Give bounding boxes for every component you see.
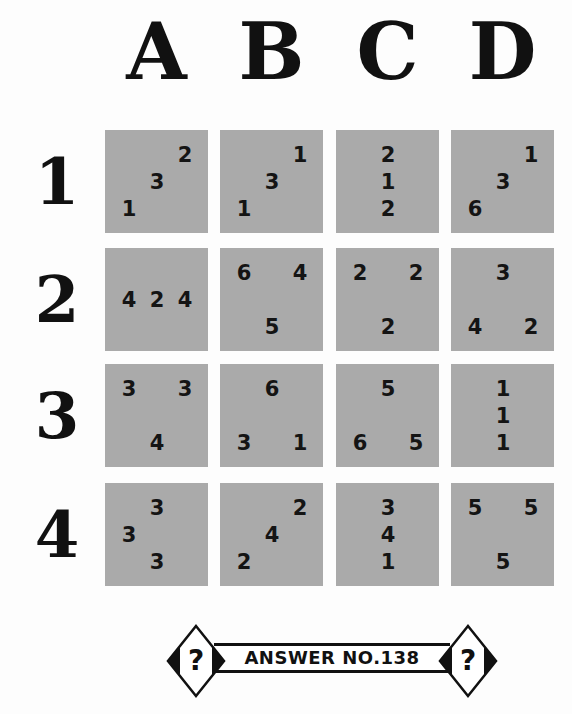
cell-digit: 5 bbox=[376, 376, 400, 402]
puzzle-cell-d1: 136 bbox=[451, 130, 554, 233]
cell-digit: 1 bbox=[491, 376, 515, 402]
puzzle-cell-d3: 111 bbox=[451, 364, 554, 467]
cell-digit: 3 bbox=[376, 495, 400, 521]
cell-digit: 2 bbox=[288, 495, 312, 521]
cell-digit: 3 bbox=[117, 376, 141, 402]
puzzle-cell-c1: 212 bbox=[336, 130, 439, 233]
puzzle-cell-d4: 555 bbox=[451, 483, 554, 586]
cell-digit: 5 bbox=[491, 549, 515, 575]
cell-digit: 2 bbox=[404, 260, 428, 286]
puzzle-cell-a3: 334 bbox=[105, 364, 208, 467]
puzzle-cell-a4: 333 bbox=[105, 483, 208, 586]
puzzle-cell-b3: 631 bbox=[220, 364, 323, 467]
cell-digit: 4 bbox=[288, 260, 312, 286]
question-mark-icon: ? bbox=[166, 624, 226, 698]
puzzle-cell-d2: 342 bbox=[451, 248, 554, 351]
puzzle-cell-a2: 424 bbox=[105, 248, 208, 351]
row-label-3: 3 bbox=[22, 364, 92, 467]
cell-digit: 4 bbox=[145, 430, 169, 456]
cell-digit: 4 bbox=[173, 287, 197, 313]
cell-digit: 5 bbox=[463, 495, 487, 521]
row-label-2: 2 bbox=[22, 248, 92, 351]
cell-digit: 2 bbox=[376, 142, 400, 168]
cell-digit: 3 bbox=[232, 430, 256, 456]
cell-digit: 2 bbox=[348, 260, 372, 286]
cell-digit: 3 bbox=[145, 549, 169, 575]
cell-digit: 1 bbox=[232, 196, 256, 222]
cell-digit: 3 bbox=[491, 169, 515, 195]
cell-digit: 3 bbox=[491, 260, 515, 286]
cell-digit: 4 bbox=[463, 314, 487, 340]
puzzle-cell-a1: 231 bbox=[105, 130, 208, 233]
cell-digit: 3 bbox=[260, 169, 284, 195]
cell-digit: 1 bbox=[376, 169, 400, 195]
cell-digit: 4 bbox=[117, 287, 141, 313]
puzzle-cell-c2: 222 bbox=[336, 248, 439, 351]
question-mark-icon: ? bbox=[438, 624, 498, 698]
cell-digit: 2 bbox=[376, 196, 400, 222]
cell-digit: 5 bbox=[404, 430, 428, 456]
column-label-c: C bbox=[336, 12, 439, 92]
cell-digit: 6 bbox=[463, 196, 487, 222]
cell-digit: 1 bbox=[288, 430, 312, 456]
cell-digit: 3 bbox=[117, 522, 141, 548]
cell-digit: 1 bbox=[117, 196, 141, 222]
column-label-d: D bbox=[451, 12, 554, 92]
cell-digit: 1 bbox=[491, 430, 515, 456]
puzzle-cell-b1: 131 bbox=[220, 130, 323, 233]
puzzle-cell-b4: 242 bbox=[220, 483, 323, 586]
column-label-a: A bbox=[105, 12, 208, 92]
cell-digit: 3 bbox=[173, 376, 197, 402]
cell-digit: 6 bbox=[232, 260, 256, 286]
cell-digit: 2 bbox=[376, 314, 400, 340]
cell-digit: 5 bbox=[260, 314, 284, 340]
svg-text:?: ? bbox=[188, 644, 204, 677]
cell-digit: 2 bbox=[145, 287, 169, 313]
svg-text:?: ? bbox=[460, 644, 476, 677]
puzzle-cell-c3: 565 bbox=[336, 364, 439, 467]
answer-banner: ANSWER NO.138 ? ? bbox=[166, 624, 496, 700]
row-label-4: 4 bbox=[22, 483, 92, 586]
cell-digit: 1 bbox=[491, 403, 515, 429]
cell-digit: 5 bbox=[519, 495, 543, 521]
cell-digit: 3 bbox=[145, 169, 169, 195]
cell-digit: 3 bbox=[145, 495, 169, 521]
puzzle-cell-c4: 341 bbox=[336, 483, 439, 586]
answer-label: ANSWER NO.138 bbox=[218, 645, 446, 671]
cell-digit: 6 bbox=[260, 376, 284, 402]
cell-digit: 1 bbox=[376, 549, 400, 575]
cell-digit: 2 bbox=[519, 314, 543, 340]
column-label-b: B bbox=[220, 12, 323, 92]
cell-digit: 4 bbox=[376, 522, 400, 548]
cell-digit: 6 bbox=[348, 430, 372, 456]
puzzle-cell-b2: 645 bbox=[220, 248, 323, 351]
cell-digit: 2 bbox=[173, 142, 197, 168]
cell-digit: 4 bbox=[260, 522, 284, 548]
cell-digit: 1 bbox=[519, 142, 543, 168]
row-label-1: 1 bbox=[22, 130, 92, 233]
cell-digit: 1 bbox=[288, 142, 312, 168]
cell-digit: 2 bbox=[232, 549, 256, 575]
